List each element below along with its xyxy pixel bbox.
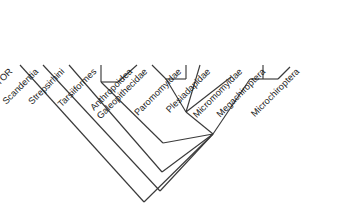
branch-galeopithecidae [152, 65, 166, 79]
branch-scandentia [43, 65, 160, 191]
branch-root-to-crown [144, 134, 213, 202]
phylogenetic-tree-svg: ANCESTOR Scandentia Strepsirhini Tarsiif… [0, 0, 344, 215]
cladogram-figure: ANCESTOR Scandentia Strepsirhini Tarsiif… [0, 0, 344, 215]
spine-strepsirhini [162, 134, 213, 172]
tree-tip-labels: ANCESTOR Scandentia Strepsirhini Tarsiif… [0, 66, 302, 121]
